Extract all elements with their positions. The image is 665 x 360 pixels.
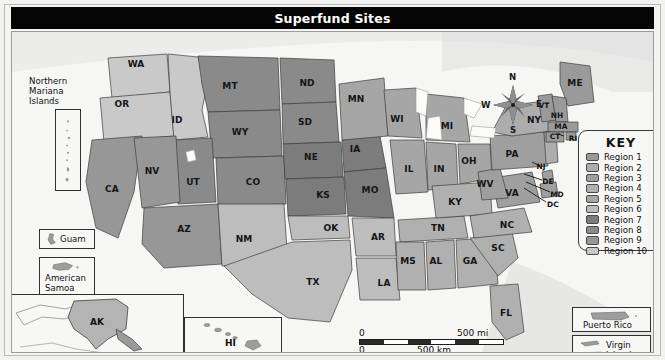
- state-label-il: IL: [404, 164, 413, 174]
- legend-label-region-7: Region 7: [604, 215, 642, 225]
- legend-swatch-region-9: [586, 236, 599, 244]
- legend-label-region-2: Region 2: [604, 163, 642, 173]
- inset-label-hawaii: HI: [225, 338, 236, 348]
- northern-mariana-islands-shape: [56, 110, 80, 190]
- legend-label-region-1: Region 1: [604, 152, 642, 162]
- inset-label-american-samoa: American Samoa: [45, 273, 86, 293]
- state-label-mt: MT: [222, 81, 237, 91]
- state-label-sc: SC: [491, 243, 504, 253]
- inset-puerto-rico: Puerto Rico: [572, 307, 651, 332]
- legend-label-region-8: Region 8: [604, 225, 642, 235]
- inset-alaska: AK: [12, 294, 184, 353]
- compass-north-label: N: [509, 72, 516, 82]
- state-label-ia: IA: [350, 144, 361, 154]
- legend-swatch-region-6: [586, 205, 599, 213]
- legend-row-region-10[interactable]: Region 10: [579, 246, 654, 256]
- legend-swatch-region-5: [586, 195, 599, 203]
- state-label-wa: WA: [128, 59, 145, 69]
- map-page: Superfund Sites: [0, 0, 665, 360]
- state-label-ri: RI: [569, 134, 578, 143]
- legend-row-region-5[interactable]: Region 5: [579, 194, 654, 204]
- legend-row-region-7[interactable]: Region 7: [579, 214, 654, 224]
- legend-row-region-3[interactable]: Region 3: [579, 173, 654, 183]
- legend-swatch-region-7: [586, 215, 599, 223]
- state-label-tx: TX: [306, 277, 319, 287]
- state-label-ks: KS: [316, 190, 330, 200]
- legend-rows: Region 1Region 2Region 3Region 4Region 5…: [579, 152, 654, 256]
- state-label-md: MD: [550, 190, 564, 199]
- state-label-de: DE: [542, 177, 553, 186]
- region-10-states: [100, 54, 208, 142]
- state-label-wv: WV: [476, 179, 493, 189]
- state-label-ma: MA: [554, 122, 567, 131]
- state-label-al: AL: [430, 256, 443, 266]
- state-label-co: CO: [246, 177, 260, 187]
- state-label-me: ME: [567, 78, 582, 88]
- scale-miles-max: 500 mi: [457, 328, 488, 338]
- state-label-fl: FL: [500, 308, 512, 318]
- state-label-ms: MS: [400, 256, 416, 266]
- state-label-ne: NE: [304, 152, 318, 162]
- state-label-wy: WY: [232, 127, 249, 137]
- state-label-ca: CA: [105, 184, 119, 194]
- inset-label-guam: Guam: [60, 234, 86, 244]
- map-canvas: WAORIDMTWYNDSDNEKSIAMOMNWIMIILINOHNVCAUT…: [11, 31, 654, 353]
- legend-swatch-region-1: [586, 153, 599, 161]
- legend-label-region-3: Region 3: [604, 173, 642, 183]
- legend-row-region-2[interactable]: Region 2: [579, 162, 654, 172]
- scale-km-row: 0 500 km: [359, 345, 504, 353]
- legend-label-region-6: Region 6: [604, 204, 642, 214]
- state-label-ky: KY: [448, 197, 462, 207]
- scale-miles-zero: 0: [359, 328, 365, 338]
- compass-east-label: E: [536, 99, 542, 109]
- state-label-tn: TN: [431, 223, 445, 233]
- legend-row-region-6[interactable]: Region 6: [579, 204, 654, 214]
- page-title: Superfund Sites: [274, 11, 390, 26]
- legend-swatch-region-8: [586, 226, 599, 234]
- state-label-ok: OK: [324, 223, 339, 233]
- state-label-pa: PA: [506, 149, 519, 159]
- legend-title: KEY: [579, 135, 654, 150]
- inset-label-puerto-rico: Puerto Rico: [583, 320, 632, 330]
- compass-south-label: S: [510, 125, 516, 135]
- state-label-or: OR: [115, 99, 130, 109]
- state-label-la: LA: [378, 278, 391, 288]
- state-label-ct: CT: [550, 132, 561, 141]
- state-label-nh: NH: [551, 111, 564, 120]
- compass-west-label: W: [481, 100, 490, 110]
- inset-label-alaska: AK: [90, 317, 104, 327]
- state-label-va: VA: [505, 188, 519, 198]
- state-label-mi: MI: [441, 121, 454, 131]
- state-label-nj: NJ: [536, 162, 545, 171]
- legend-row-region-9[interactable]: Region 9: [579, 235, 654, 245]
- state-label-oh: OH: [461, 156, 476, 166]
- legend-label-region-5: Region 5: [604, 194, 642, 204]
- state-label-nd: ND: [299, 78, 314, 88]
- inset-northern-mariana-islands: [55, 109, 81, 191]
- state-label-id: ID: [171, 115, 182, 125]
- scale-km-zero: 0: [359, 345, 365, 353]
- legend-row-region-8[interactable]: Region 8: [579, 225, 654, 235]
- legend-swatch-region-10: [586, 247, 599, 255]
- inset-label-northern-mariana-islands: Northern Mariana Islands: [29, 76, 67, 106]
- legend-label-region-4: Region 4: [604, 183, 642, 193]
- state-label-ut: UT: [186, 177, 200, 187]
- inset-virgin-islands: Virgin Islands: [572, 335, 651, 353]
- map-title-bar: Superfund Sites: [11, 7, 654, 29]
- state-label-mo: MO: [362, 185, 379, 195]
- state-label-nc: NC: [500, 220, 514, 230]
- map-scale-bar: 0 500 mi 0 500 km Lambert Conformal Coni…: [359, 328, 531, 353]
- state-label-wi: WI: [390, 114, 403, 124]
- inset-american-samoa: American Samoa: [39, 257, 95, 295]
- compass-rose: N E S W: [480, 74, 546, 136]
- state-label-in: IN: [433, 164, 444, 174]
- region-7-states: [283, 136, 394, 218]
- legend-row-region-4[interactable]: Region 4: [579, 183, 654, 193]
- legend-swatch-region-3: [586, 174, 599, 182]
- state-label-nv: NV: [145, 166, 160, 176]
- scale-miles-row: 0 500 mi: [359, 328, 504, 339]
- legend-row-region-1[interactable]: Region 1: [579, 152, 654, 162]
- inset-hawaii: HI: [184, 317, 282, 353]
- state-label-dc: DC: [547, 200, 559, 209]
- inset-label-virgin-islands: Virgin Islands: [606, 340, 636, 353]
